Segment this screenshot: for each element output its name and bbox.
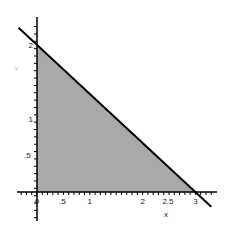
y-tick-label: 2 (29, 41, 34, 50)
y-tick-label: 1 (29, 115, 34, 124)
x-tick-label: .5 (59, 197, 66, 206)
y-tick-label: .5 (24, 151, 31, 160)
x-tick-label: 0 (35, 197, 40, 206)
x-tick-label: 3 (193, 197, 198, 206)
y-axis-label: y (15, 65, 18, 71)
x-axis-label: x (164, 210, 168, 219)
x-tick-label: 2.5 (162, 197, 174, 206)
x-tick-label: 2 (140, 197, 145, 206)
chart: 0.5122.53.512 x y (0, 0, 229, 234)
x-tick-label: 1 (88, 197, 93, 206)
